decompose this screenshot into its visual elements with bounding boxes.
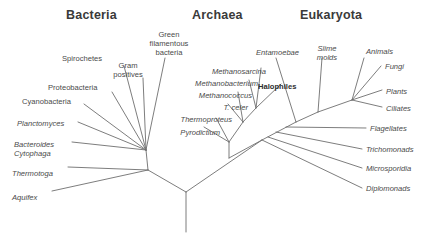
root-to-bacteria [148,170,186,192]
edge-trichomonads [276,132,362,149]
edge-animals [352,58,364,100]
euk-crown-stem [318,100,352,112]
taxon-label-fungi: Fungi [385,62,419,71]
taxon-label-green-filamentous-bacteria: Greenfilamentousbacteria [140,30,198,58]
taxon-label-methanosarcina: Methanosarcina [196,67,266,76]
taxon-label-plants: Plants [386,87,422,96]
taxon-label-methanobacterium: Methanobacterium [172,79,258,88]
taxon-label-ciliates: Ciliates [386,104,426,113]
eukaryota-branches [262,58,382,188]
edge-proteobacteria [112,92,146,150]
taxon-label-cyanobacteria: Cyanobacteria [22,97,88,106]
euk-backbone-2 [296,112,318,122]
taxon-label-halophiles: Halophiles [258,82,310,91]
edge-planctomyces [78,122,146,150]
taxon-label-pyrodictium: Pyrodictium [158,128,220,137]
taxon-label-microsporidia: Microsporidia [366,164,424,173]
taxon-label-trichomonads: Trichomonads [366,145,424,154]
taxon-label-thermotoga: Thermotoga [12,169,68,178]
taxon-label-flagellates: Flagellates [370,124,422,133]
taxon-label-planctomyces: Planctomyces [17,119,81,128]
edge-ciliates [352,100,382,107]
edge-bacteroides [72,142,146,150]
taxon-label-bacteroides-cytophaga: BacteroidesCytophaga [14,140,76,158]
domain-title-bacteria: Bacteria [66,8,117,22]
taxon-label-gram-positives: Grampositives [107,61,149,79]
taxon-label-diplomonads: Diplomonads [366,184,422,193]
domain-title-eukaryota: Eukaryota [300,8,362,22]
bacteria-stem [146,150,148,170]
taxon-label-slime-molds: Slimemolds [311,44,343,62]
taxon-label-aquifex: Aquifex [12,193,52,202]
edge-flagellates [286,127,366,128]
taxon-label-t-celer: T. celer [196,103,248,112]
taxon-label-animals: Animals [366,47,406,56]
root-branches [148,140,262,232]
phylogenetic-tree-figure: BacteriaArchaeaEukaryota Greenfilamentou… [0,0,427,239]
taxon-label-proteobacteria: Proteobacteria [48,83,116,92]
edge-microsporidia [268,137,362,168]
taxon-label-entamoebae: Entamoebae [256,48,308,57]
edge-cyanobacteria [84,104,146,150]
archaea-base [229,140,262,158]
edge-thermotoga [68,167,148,170]
euk-backbone-1 [262,122,296,140]
archaea-upper-stem [229,122,243,142]
root-to-archeuk [186,140,262,192]
edge-diplomonads [262,140,362,188]
taxon-label-thermoproteus: Thermoproteus [164,115,232,124]
taxon-label-methanococcus: Methanococcus [180,91,252,100]
domain-title-archaea: Archaea [192,8,243,22]
edge-slime-molds [318,58,322,112]
